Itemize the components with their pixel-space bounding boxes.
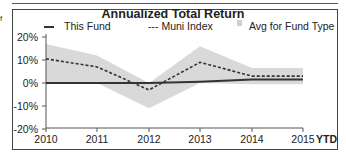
x-tick-label: 2015 bbox=[291, 133, 315, 145]
x-tick-label: 2014 bbox=[240, 133, 264, 145]
chart-plot: 20%10%0%-10%-20%201020112012201320142015… bbox=[0, 0, 346, 160]
y-tick-label: 0% bbox=[23, 77, 38, 89]
y-tick-label: -10% bbox=[13, 100, 38, 112]
x-tick-label: 2011 bbox=[86, 133, 109, 145]
x-tick-label: 2012 bbox=[137, 133, 161, 145]
y-tick-label: 20% bbox=[17, 31, 38, 43]
x-tick-label: 2013 bbox=[188, 133, 212, 145]
y-tick-label: 10% bbox=[17, 54, 38, 66]
ytd-label: YTD bbox=[316, 133, 337, 145]
x-tick-label: 2010 bbox=[34, 133, 58, 145]
